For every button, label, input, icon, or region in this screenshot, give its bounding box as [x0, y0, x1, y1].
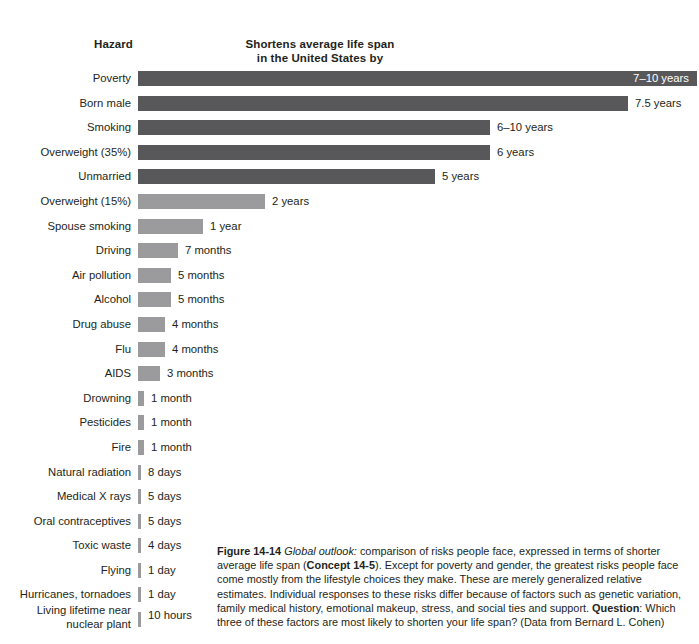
hazard-column-header: Hazard — [94, 38, 133, 50]
hazard-bar — [138, 415, 144, 430]
value-column-header: Shortens average life span in the United… — [200, 38, 440, 65]
chart-row: AIDS3 months — [0, 365, 699, 390]
hazard-bar — [138, 465, 141, 480]
hazard-bar — [138, 219, 203, 234]
hazard-bar — [138, 96, 628, 111]
hazard-value-label: 7–10 years — [138, 71, 689, 86]
chart-row: Pesticides1 month — [0, 414, 699, 439]
hazard-value-label: 5 years — [442, 169, 479, 184]
chart-row: Spouse smoking1 year — [0, 218, 699, 243]
hazard-label: Overweight (35%) — [0, 144, 131, 160]
chart-header: Hazard Shortens average life span in the… — [0, 38, 699, 70]
hazard-bar — [138, 587, 141, 602]
hazard-bar — [138, 514, 141, 529]
hazard-bar — [138, 440, 144, 455]
caption-figure-number: Figure 14-14 — [217, 545, 281, 557]
hazard-value-label: 8 days — [148, 465, 181, 480]
hazard-value-label: 7 months — [185, 243, 231, 258]
caption-question-label: Question — [592, 602, 639, 614]
hazard-bar — [138, 489, 141, 504]
hazard-bar — [138, 563, 141, 578]
hazard-value-label: 5 months — [178, 292, 224, 307]
chart-row: Smoking6–10 years — [0, 119, 699, 144]
hazard-value-label: 7.5 years — [635, 96, 681, 111]
hazard-value-label: 1 month — [151, 440, 192, 455]
caption-concept-ref: Concept 14-5 — [307, 559, 375, 571]
caption-emphasis: Global outlook: — [284, 545, 357, 557]
hazard-bar — [138, 342, 165, 357]
chart-row: Fire1 month — [0, 439, 699, 464]
hazard-value-label: 6 years — [497, 145, 534, 160]
hazard-value-label: 10 hours — [148, 608, 192, 623]
chart-row: Drowning1 month — [0, 390, 699, 415]
chart-row: Unmarried5 years — [0, 168, 699, 193]
hazard-bar — [138, 391, 144, 406]
hazard-label: Spouse smoking — [0, 218, 131, 234]
hazard-value-label: 2 years — [272, 194, 309, 209]
hazard-bar — [138, 292, 171, 307]
figure-caption: Figure 14-14 Global outlook: comparison … — [217, 544, 687, 629]
chart-row: Overweight (35%)6 years — [0, 144, 699, 169]
chart-row: Poverty7–10 years — [0, 70, 699, 95]
hazard-label: Flu — [0, 341, 131, 357]
hazard-label: Flying — [0, 562, 131, 578]
chart-row: Alcohol5 months — [0, 291, 699, 316]
hazard-bar — [138, 243, 178, 258]
hazard-label: Hurricanes, tornadoes — [0, 586, 131, 602]
hazard-label: Air pollution — [0, 267, 131, 283]
hazard-label: Fire — [0, 439, 131, 455]
hazard-label: Poverty — [0, 70, 131, 86]
hazard-bar — [138, 366, 160, 381]
chart-row: Overweight (15%)2 years — [0, 193, 699, 218]
chart-row: Natural radiation8 days — [0, 464, 699, 489]
hazard-label: AIDS — [0, 365, 131, 381]
value-column-header-line1: Shortens average life span — [200, 38, 440, 52]
hazard-label: Drug abuse — [0, 316, 131, 332]
hazard-value-label: 1 month — [151, 415, 192, 430]
hazard-value-label: 4 months — [172, 317, 218, 332]
hazard-label: Overweight (15%) — [0, 193, 131, 209]
hazard-bar — [138, 145, 490, 160]
hazard-value-label: 1 day — [148, 563, 176, 578]
hazard-label: Oral contraceptives — [0, 513, 131, 529]
hazard-value-label: 6–10 years — [497, 120, 553, 135]
hazard-label: Alcohol — [0, 291, 131, 307]
hazard-bar — [138, 194, 265, 209]
hazard-bar — [138, 317, 165, 332]
hazard-value-label: 5 months — [178, 268, 224, 283]
hazard-label: Drowning — [0, 390, 131, 406]
hazard-label: Natural radiation — [0, 464, 131, 480]
hazard-label: Driving — [0, 242, 131, 258]
value-column-header-line2: in the United States by — [200, 52, 440, 66]
hazard-label: Born male — [0, 95, 131, 111]
hazard-bar — [138, 538, 141, 553]
hazard-label: Unmarried — [0, 168, 131, 184]
hazard-bar — [138, 268, 171, 283]
hazard-label: Medical X rays — [0, 488, 131, 504]
chart-row: Medical X rays5 days — [0, 488, 699, 513]
hazard-bar — [138, 612, 141, 627]
chart-row: Oral contraceptives5 days — [0, 513, 699, 538]
chart-row: Air pollution5 months — [0, 267, 699, 292]
hazard-value-label: 1 year — [210, 219, 241, 234]
hazard-value-label: 3 months — [167, 366, 213, 381]
hazard-value-label: 1 month — [151, 391, 192, 406]
chart-row: Flu4 months — [0, 341, 699, 366]
hazard-bar — [138, 120, 490, 135]
chart-row: Drug abuse4 months — [0, 316, 699, 341]
hazard-label: Toxic waste — [0, 537, 131, 553]
hazard-value-label: 5 days — [148, 514, 181, 529]
chart-row: Born male7.5 years — [0, 95, 699, 120]
hazard-label: Living lifetime near nuclear plant — [0, 603, 131, 631]
hazard-label: Pesticides — [0, 414, 131, 430]
hazard-label: Smoking — [0, 119, 131, 135]
hazard-value-label: 4 months — [172, 342, 218, 357]
hazard-bar — [138, 169, 435, 184]
hazard-value-label: 1 day — [148, 587, 176, 602]
hazard-value-label: 4 days — [148, 538, 181, 553]
chart-row: Driving7 months — [0, 242, 699, 267]
hazard-value-label: 5 days — [148, 489, 181, 504]
